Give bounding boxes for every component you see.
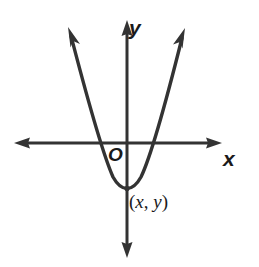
vertex-label-x: x: [135, 191, 143, 212]
coordinate-plane-svg: [0, 0, 259, 267]
x-axis-label: x: [223, 148, 235, 169]
vertex-label-comma: ,: [144, 191, 154, 212]
y-axis-bottom-arrowhead: [122, 242, 133, 258]
origin-label: O: [108, 145, 123, 164]
x-axis-right-arrowhead: [206, 138, 222, 149]
vertex-label-close-paren: ): [162, 191, 168, 212]
vertex-label-y: y: [153, 191, 161, 212]
vertex-coordinate-label: (x, y): [129, 192, 168, 211]
x-axis-left-arrowhead: [14, 138, 30, 149]
y-axis-label: y: [129, 17, 141, 38]
parabola-diagram: y x O (x, y): [0, 0, 259, 267]
